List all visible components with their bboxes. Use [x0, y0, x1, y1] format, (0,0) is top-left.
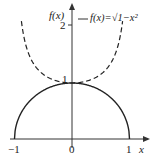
chart: f(x) 2 1 f(x)=√1−x² −1 0 1 x [0, 0, 154, 162]
y-tick-label-1: 1 [62, 74, 68, 85]
x-tick-label-1: 1 [126, 144, 132, 155]
x-tick-label-0: 0 [69, 144, 75, 155]
plot-area [0, 0, 154, 162]
y-axis-arrow-icon [69, 3, 75, 10]
x-axis-label: x [139, 144, 144, 155]
y-tick-label-2: 2 [60, 20, 66, 31]
x-axis-arrow-icon [143, 136, 150, 142]
x-tick-label-neg1: −1 [8, 144, 20, 155]
legend-label: f(x)=√1−x² [90, 13, 138, 24]
